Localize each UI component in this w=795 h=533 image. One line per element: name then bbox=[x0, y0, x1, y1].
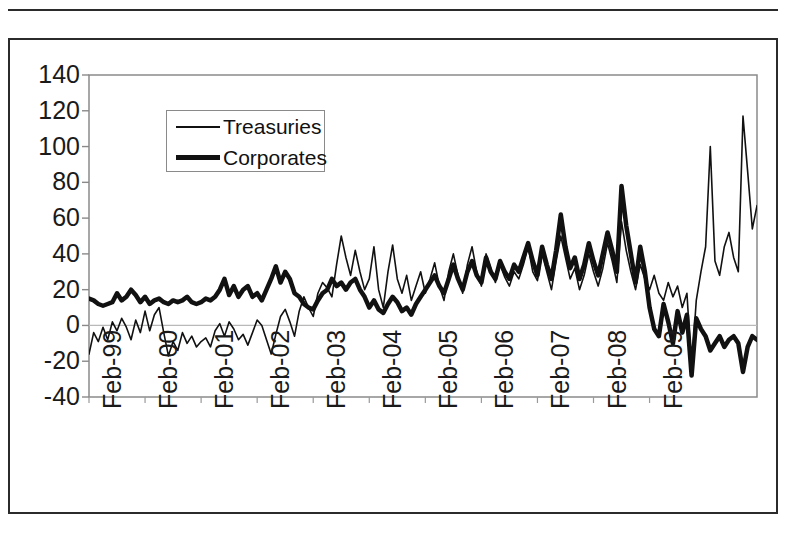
x-tick-label: Feb-01 bbox=[210, 330, 239, 409]
x-tick-label: Feb-09 bbox=[659, 330, 688, 409]
x-tick-label: Feb-00 bbox=[154, 330, 183, 409]
chart-legend: Treasuries Corporates bbox=[166, 110, 325, 172]
x-tick-label: Feb-08 bbox=[603, 330, 632, 409]
legend-line-icon-treasuries bbox=[175, 126, 221, 128]
legend-line-icon-corporates bbox=[175, 155, 221, 160]
legend-item-treasuries: Treasuries bbox=[167, 111, 324, 142]
x-tick-label: Feb-03 bbox=[322, 330, 351, 409]
legend-label-corporates: Corporates bbox=[223, 147, 327, 168]
plot-area: -40-20020406080100120140 Feb-99Feb-00Feb… bbox=[0, 0, 795, 533]
x-tick-label: Feb-07 bbox=[546, 330, 575, 409]
x-axis-labels: Feb-99Feb-00Feb-01Feb-02Feb-03Feb-04Feb-… bbox=[0, 0, 795, 533]
x-tick-label: Feb-02 bbox=[266, 330, 295, 409]
x-tick-label: Feb-04 bbox=[378, 330, 407, 409]
legend-item-corporates: Corporates bbox=[167, 142, 324, 173]
x-tick-label: Feb-06 bbox=[490, 330, 519, 409]
x-tick-label: Feb-05 bbox=[434, 330, 463, 409]
figure-root: -40-20020406080100120140 Feb-99Feb-00Feb… bbox=[0, 0, 795, 533]
x-tick-label: Feb-99 bbox=[98, 330, 127, 409]
legend-label-treasuries: Treasuries bbox=[223, 116, 321, 137]
